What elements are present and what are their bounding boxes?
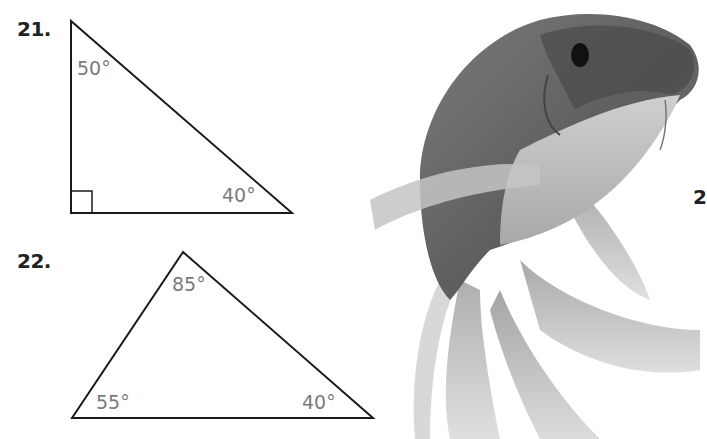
partial-problem-number: 2 <box>693 185 707 209</box>
angle-label-22-top: 85° <box>172 275 206 294</box>
angle-label-22-bottom-right: 40° <box>302 393 336 412</box>
angle-label-22-bottom-left: 55° <box>96 393 130 412</box>
